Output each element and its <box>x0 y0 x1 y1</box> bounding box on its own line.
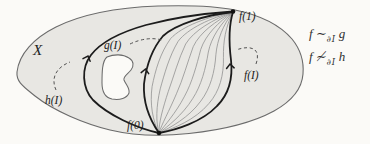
figure-canvas: X g(I) h(I) f(I) f(1) f(0) f ∼∂I g f ≁∂I… <box>0 0 370 144</box>
relation-not-homotopic: f ≁∂I h <box>309 48 345 71</box>
point-f1-dot <box>231 9 236 14</box>
point-f0-dot <box>157 131 162 136</box>
label-f-of-I: f(I) <box>244 69 259 82</box>
homotopic-symbol: ∼ <box>316 26 327 41</box>
not-homotopic-symbol: ≁ <box>316 49 327 64</box>
label-space-x: X <box>32 42 43 58</box>
rel-subscript: ∂I <box>327 34 336 44</box>
relation-homotopic: f ∼∂I g <box>309 25 345 48</box>
relation-rhs: h <box>339 49 346 64</box>
label-f-of-0: f(0) <box>127 119 144 132</box>
homotopy-diagram: X g(I) h(I) f(I) f(1) f(0) <box>0 0 370 144</box>
relation-rhs: g <box>339 26 346 41</box>
label-f-of-1: f(1) <box>239 10 256 23</box>
relation-lhs: f <box>309 49 313 64</box>
relations-block: f ∼∂I g f ≁∂I h <box>309 25 345 70</box>
space-region <box>17 6 303 136</box>
rel-subscript: ∂I <box>327 56 336 66</box>
relation-lhs: f <box>309 26 313 41</box>
label-h-of-I: h(I) <box>45 94 62 107</box>
label-g-of-I: g(I) <box>104 39 121 52</box>
